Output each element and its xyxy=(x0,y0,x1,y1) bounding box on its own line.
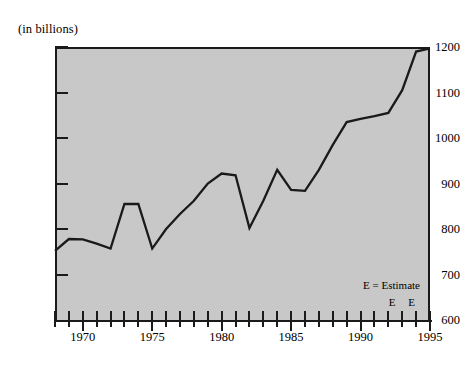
chart-container: (in billions) 600700800900100011001200 1… xyxy=(0,0,460,373)
legend-estimate-markers: E E xyxy=(389,296,420,308)
data-line-series xyxy=(0,0,460,373)
legend-estimate-label: E = Estimate xyxy=(363,279,420,291)
